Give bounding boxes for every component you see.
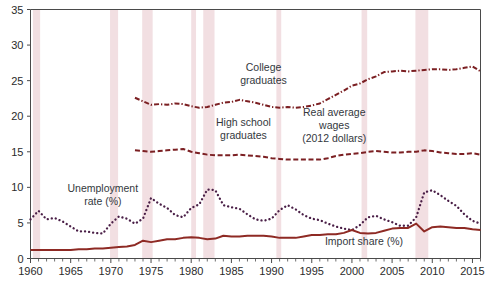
series-high-school-graduates (135, 149, 481, 160)
y-axis-tick-label: 15 (11, 146, 23, 158)
y-axis-tick-label: 25 (11, 75, 23, 87)
real-average-wages-label-line: wages (318, 119, 349, 131)
recession-band (415, 10, 428, 259)
unemployment-rate-label-line: rate (%) (84, 195, 121, 207)
x-axis-tick-label: 2015 (460, 265, 484, 277)
recession-band (110, 10, 118, 259)
x-axis-tick-label: 1985 (219, 265, 243, 277)
x-axis-tick-label: 1995 (300, 265, 324, 277)
x-axis-tick-label: 1960 (18, 265, 42, 277)
recession-band (33, 10, 40, 259)
recession-band (142, 10, 152, 259)
chart-figure: 0510152025303519601965197019751980198519… (0, 0, 498, 287)
college-graduates-label: Collegegraduates (240, 61, 287, 86)
high-school-graduates-label: High schoolgraduates (216, 116, 271, 141)
series-college-graduates (135, 66, 481, 107)
real-average-wages-label: Real averagewages(2012 dollars) (302, 106, 366, 144)
recession-band (203, 10, 214, 259)
real-average-wages-label-line: (2012 dollars) (302, 132, 366, 144)
recession-band (276, 10, 281, 259)
recession-band (191, 10, 196, 259)
high-school-graduates-label-line: graduates (220, 129, 267, 141)
high-school-graduates-label-line: High school (216, 116, 271, 128)
x-axis-tick-label: 1965 (58, 265, 82, 277)
chart-canvas: 0510152025303519601965197019751980198519… (0, 0, 498, 287)
real-average-wages-label-line: Real average (303, 106, 366, 118)
x-axis-tick-label: 1980 (179, 265, 203, 277)
x-axis-tick-label: 2010 (420, 265, 444, 277)
college-graduates-label-line: graduates (240, 74, 287, 86)
y-axis-tick-label: 10 (11, 181, 23, 193)
unemployment-rate-label: Unemploymentrate (%) (68, 182, 139, 207)
series-layer (31, 66, 481, 250)
x-axis-tick-label: 1990 (259, 265, 283, 277)
unemployment-rate-label-line: Unemployment (68, 182, 139, 194)
x-axis-tick-label: 2000 (340, 265, 364, 277)
y-axis-tick-label: 30 (11, 39, 23, 51)
x-axis-tick-label: 1975 (139, 265, 163, 277)
college-graduates-label-line: College (246, 61, 282, 73)
x-axis-tick-label: 1970 (99, 265, 123, 277)
import-share-label-line: Import share (%) (325, 235, 403, 247)
x-axis-tick-label: 2005 (380, 265, 404, 277)
y-axis-tick-label: 20 (11, 110, 23, 122)
y-axis-tick-label: 5 (17, 217, 23, 229)
y-axis-tick-label: 0 (17, 253, 23, 265)
series-import-share (31, 224, 481, 250)
y-axis-tick-label: 35 (11, 4, 23, 16)
import-share-label: Import share (%) (325, 235, 403, 247)
